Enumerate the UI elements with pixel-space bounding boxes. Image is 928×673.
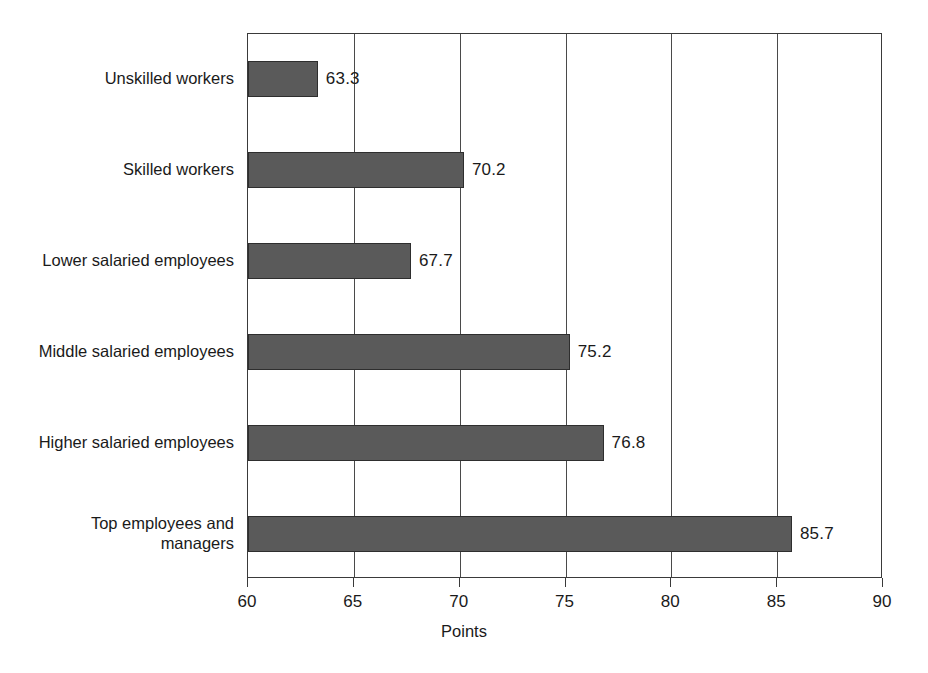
x-axis-tick xyxy=(247,578,248,587)
bar-row: 85.7 xyxy=(248,488,881,579)
x-axis-tick xyxy=(353,578,354,587)
bar-row: 76.8 xyxy=(248,397,881,488)
x-axis-tick-label: 70 xyxy=(449,592,468,612)
x-axis-tick-label: 80 xyxy=(661,592,680,612)
plot-area: 63.370.267.775.276.885.7 xyxy=(247,33,882,578)
bar-value-label: 85.7 xyxy=(800,524,834,544)
x-axis-tick-label: 60 xyxy=(238,592,257,612)
bar-row: 67.7 xyxy=(248,216,881,307)
bar-chart: 63.370.267.775.276.885.7 Unskilled worke… xyxy=(0,0,928,673)
x-axis-tick xyxy=(459,578,460,587)
x-axis-tick xyxy=(776,578,777,587)
bar-row: 63.3 xyxy=(248,34,881,125)
x-axis-title: Points xyxy=(0,622,928,641)
x-axis-tick xyxy=(670,578,671,587)
bar-row: 70.2 xyxy=(248,125,881,216)
bar xyxy=(248,516,792,552)
bar-value-label: 63.3 xyxy=(326,69,360,89)
x-axis-tick xyxy=(882,578,883,587)
bar-value-label: 70.2 xyxy=(472,160,506,180)
bar xyxy=(248,61,318,97)
x-axis-tick-label: 90 xyxy=(873,592,892,612)
bar xyxy=(248,152,464,188)
bar xyxy=(248,425,604,461)
x-axis-tick-label: 85 xyxy=(767,592,786,612)
x-axis-title-text: Points xyxy=(441,622,487,641)
category-label: Top employees and managers xyxy=(4,513,234,553)
category-label: Higher salaried employees xyxy=(4,432,234,452)
bar-value-label: 76.8 xyxy=(612,433,646,453)
category-label: Skilled workers xyxy=(4,159,234,179)
bar-value-label: 67.7 xyxy=(419,251,453,271)
x-axis-tick-label: 65 xyxy=(343,592,362,612)
category-label: Unskilled workers xyxy=(4,68,234,88)
x-axis-tick xyxy=(565,578,566,587)
x-axis-tick-label: 75 xyxy=(555,592,574,612)
bar-row: 75.2 xyxy=(248,307,881,398)
category-label: Middle salaried employees xyxy=(4,341,234,361)
bar xyxy=(248,243,411,279)
category-label: Lower salaried employees xyxy=(4,250,234,270)
bar xyxy=(248,334,570,370)
bar-value-label: 75.2 xyxy=(578,342,612,362)
